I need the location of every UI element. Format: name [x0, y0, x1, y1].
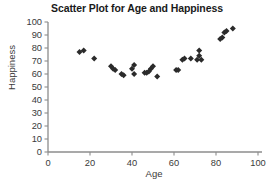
data-point	[91, 55, 97, 61]
y-tick-label: 90	[32, 30, 42, 40]
x-tick-label: 20	[85, 158, 95, 168]
data-point	[131, 71, 137, 77]
y-tick-label: 10	[32, 134, 42, 144]
x-tick-label: 40	[127, 158, 137, 168]
y-tick-label: 40	[32, 95, 42, 105]
data-point	[188, 55, 194, 61]
data-point	[230, 26, 236, 32]
y-tick-label: 20	[32, 121, 42, 131]
y-tick-label-group: 0102030405060708090100	[26, 17, 42, 157]
y-tick-label: 100	[26, 17, 42, 27]
x-tick-label-group: 020406080100	[45, 158, 265, 168]
data-point-group	[77, 26, 236, 80]
scatter-plot-figure: Scatter Plot for Age and Happiness Happi…	[0, 0, 274, 185]
y-tick-label: 70	[32, 56, 42, 66]
y-tick-label: 50	[32, 82, 42, 92]
x-tick-label: 60	[169, 158, 179, 168]
x-tick-label: 0	[45, 158, 50, 168]
y-tick-label: 80	[32, 43, 42, 53]
tick-marks	[45, 22, 259, 156]
y-tick-label: 60	[32, 69, 42, 79]
data-point	[196, 48, 202, 54]
data-point	[154, 74, 160, 80]
x-tick-label: 80	[211, 158, 221, 168]
plot-area: 0102030405060708090100 020406080100	[0, 0, 274, 185]
x-tick-label: 100	[250, 158, 266, 168]
y-tick-label: 0	[37, 147, 42, 157]
y-tick-label: 30	[32, 108, 42, 118]
axis-lines	[48, 22, 262, 152]
